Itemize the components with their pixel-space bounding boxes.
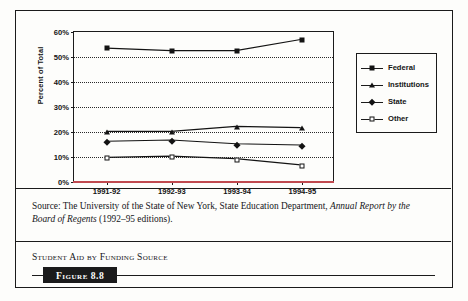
data-point-marker xyxy=(104,156,109,161)
data-point-marker xyxy=(235,157,240,162)
legend-label: Institutions xyxy=(388,80,429,89)
y-axis-tick-label: 30% xyxy=(54,103,69,112)
legend-key-marker xyxy=(369,82,375,87)
y-axis-tick-label: 20% xyxy=(54,128,69,137)
figure-frame: Percent of Total 0%10%20%30%40%50%60% 19… xyxy=(15,10,453,288)
chart-legend: FederalInstitutionsStateOther xyxy=(356,53,437,133)
zero-baseline xyxy=(73,181,334,183)
series-line xyxy=(106,126,300,131)
source-block: Source: The University of the State of N… xyxy=(16,189,451,242)
y-axis-title: Percent of Total xyxy=(36,31,45,121)
data-point-marker xyxy=(104,46,109,51)
chart-panel: Percent of Total 0%10%20%30%40%50%60% 19… xyxy=(16,11,451,189)
data-point-marker xyxy=(300,163,305,168)
data-point-marker xyxy=(104,130,110,135)
legend-label: Other xyxy=(388,114,408,123)
series-line xyxy=(106,39,300,50)
legend-item-institutions: Institutions xyxy=(357,76,436,93)
legend-key-icon xyxy=(361,96,383,108)
legend-key-marker xyxy=(370,65,375,70)
figure-tag-row: Figure 8.8 xyxy=(32,267,435,283)
legend-item-other: Other xyxy=(357,110,436,127)
y-axis-tick-label: 60% xyxy=(54,28,69,37)
y-axis-tick-label: 10% xyxy=(54,153,69,162)
series-lines xyxy=(74,32,333,181)
y-axis-tick-label: 40% xyxy=(54,78,69,87)
data-point-marker xyxy=(169,48,174,53)
source-prefix: Source: The University of the State of N… xyxy=(32,201,330,211)
y-axis-tick-label: 0% xyxy=(58,178,69,187)
figure-caption: Student Aid by Funding Source xyxy=(32,251,435,262)
y-axis-tick-label: 50% xyxy=(54,53,69,62)
series-line xyxy=(106,156,300,165)
plot-area: 0%10%20%30%40%50%60% 1991-921992-931993-… xyxy=(73,31,334,181)
figure-number-badge: Figure 8.8 xyxy=(43,267,117,283)
data-point-marker xyxy=(234,125,240,130)
legend-label: State xyxy=(388,97,407,106)
data-point-marker xyxy=(300,37,305,42)
legend-key-icon xyxy=(361,62,383,74)
data-point-marker xyxy=(299,126,305,131)
legend-key-marker xyxy=(369,98,375,104)
legend-key-icon xyxy=(361,79,383,91)
figure-page: Percent of Total 0%10%20%30%40%50%60% 19… xyxy=(0,0,468,301)
source-suffix: (1992–95 editions). xyxy=(97,214,173,224)
series-line xyxy=(106,140,300,145)
source-text: Source: The University of the State of N… xyxy=(32,200,435,226)
legend-key-icon xyxy=(361,113,383,125)
data-point-marker xyxy=(235,48,240,53)
legend-item-federal: Federal xyxy=(357,59,436,76)
legend-label: Federal xyxy=(388,63,415,72)
data-point-marker xyxy=(169,155,174,160)
legend-item-state: State xyxy=(357,93,436,110)
data-point-marker xyxy=(169,130,175,135)
legend-key-marker xyxy=(370,116,375,121)
